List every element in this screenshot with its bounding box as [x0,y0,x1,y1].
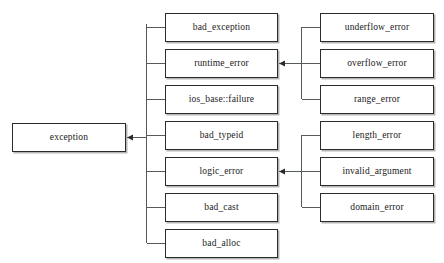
class-box-range-error[interactable]: range_error [320,85,434,114]
arrowhead-to-runtime-error [279,61,285,67]
class-label: length_error [353,131,402,141]
class-box-domain-error[interactable]: domain_error [320,193,434,222]
class-box-runtime-error[interactable]: runtime_error [165,49,278,78]
class-label: domain_error [350,203,404,213]
class-box-logic-error[interactable]: logic_error [165,157,278,186]
arrowhead-to-logic-error [279,169,285,175]
class-box-length-error[interactable]: length_error [320,121,434,150]
class-label: logic_error [200,167,244,177]
class-box-underflow-error[interactable]: underflow_error [320,13,434,42]
class-label: underflow_error [345,23,410,33]
class-box-invalid-argument[interactable]: invalid_argument [320,157,434,186]
class-box-exception[interactable]: exception [12,123,126,152]
exception-hierarchy-diagram: exception bad_exception runtime_error io… [0,0,444,263]
class-label: invalid_argument [342,167,411,177]
class-box-overflow-error[interactable]: overflow_error [320,49,434,78]
class-label: bad_alloc [202,239,240,249]
arrowhead-to-exception [127,135,133,141]
class-label: exception [50,133,88,143]
class-label: runtime_error [194,59,249,69]
class-label: bad_cast [204,203,238,213]
class-box-bad-typeid[interactable]: bad_typeid [165,121,278,150]
class-box-bad-alloc[interactable]: bad_alloc [165,229,278,258]
class-label: range_error [354,95,400,105]
class-box-ios-base-failure[interactable]: ios_base::failure [165,85,278,114]
class-label: ios_base::failure [189,95,254,105]
class-label: bad_typeid [200,131,244,141]
class-label: bad_exception [193,23,250,33]
class-box-bad-cast[interactable]: bad_cast [165,193,278,222]
class-box-bad-exception[interactable]: bad_exception [165,13,278,42]
class-label: overflow_error [347,59,407,69]
